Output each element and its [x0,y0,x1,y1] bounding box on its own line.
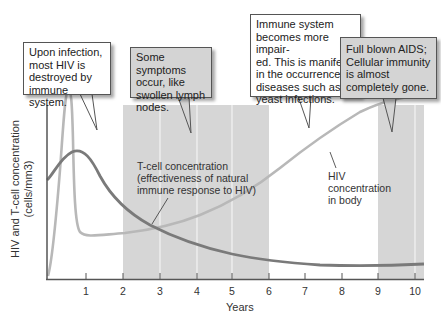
x-tick-5: 5 [229,285,235,297]
callout-line: Cellular immunity [346,56,431,69]
x-tick-1: 1 [83,285,89,297]
y-axis-label-line: (cells/mm3) [22,99,35,279]
x-tick-8: 8 [339,285,345,297]
annotation-line: in body [328,194,391,206]
annotation-line: T-cell concentration [137,160,256,172]
callout-line: most HIV is [29,59,105,72]
x-tick-4: 4 [194,285,200,297]
annotation-line: concentration [328,182,391,194]
x-tick-10: 10 [409,285,421,297]
hiv-annotation-leader [330,152,336,168]
callout-some-symptoms: Some symptoms occur, like swollen lymph … [130,47,212,98]
annotation-line: (effectiveness of natural [137,172,256,184]
callout-line: Immune system [256,18,355,31]
hiv-annotation: HIV concentration in body [328,170,391,206]
callout-upon-infection: Upon infection, most HIV is destroyed by… [23,42,111,95]
y-axis-label-line: HIV and T-cell concentration [9,99,22,279]
annotation-line: immune response to HIV) [137,184,256,196]
callout-line: destroyed by [29,71,105,84]
x-tick-3: 3 [157,285,163,297]
tcell-annotation: T-cell concentration (effectiveness of n… [137,160,256,196]
x-tick-2: 2 [120,285,126,297]
callout-full-blown-aids: Full blown AIDS; Cellular immunity is al… [340,37,437,99]
x-tick-7: 7 [302,285,308,297]
x-tick-9: 9 [375,285,381,297]
callout-line: immune system. [29,84,105,109]
callout-line: Upon infection, [29,46,105,59]
callout-line: swollen lymph [136,89,206,102]
y-axis-label: HIV and T-cell concentration (cells/mm3) [9,99,35,279]
x-axis-label: Years [226,301,254,313]
x-tick-6: 6 [266,285,272,297]
callout-line: completely gone. [346,81,431,94]
callout-line: nodes. [136,101,206,114]
annotation-line: HIV [328,170,391,182]
callout-line: Full blown AIDS; [346,43,431,56]
callout-line: occur, like [136,76,206,89]
callout-line: Some symptoms [136,51,206,76]
callout-line: is almost [346,68,431,81]
